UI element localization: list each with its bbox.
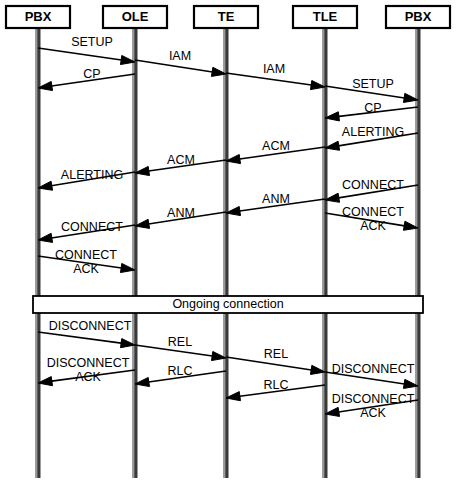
message-m24: DISCONNECTACK: [325, 392, 418, 420]
message-label: ACK: [360, 219, 386, 233]
message-m14: CONNECTACK: [325, 205, 418, 233]
message-label: ACK: [73, 262, 99, 276]
lifeline-te: [225, 28, 226, 478]
message-label: SETUP: [71, 35, 113, 49]
actor-header-te[interactable]: TE: [194, 6, 258, 28]
message-label: ALERTING: [342, 125, 404, 139]
message-m10: ALERTING: [38, 168, 135, 190]
message-label: CP: [364, 101, 381, 115]
actor-label: PBX: [25, 9, 52, 24]
message-label: DISCONNECT: [332, 362, 415, 376]
message-label: IAM: [263, 62, 285, 76]
message-label: ACK: [360, 406, 386, 420]
message-m03: CP: [38, 67, 135, 90]
sequence-diagram: SETUPIAMCPIAMSETUPCPALERTINGACMACMALERTI…: [0, 0, 457, 490]
message-m19: DISCONNECTACK: [38, 356, 135, 385]
ongoing-connection-band: Ongoing connection: [33, 296, 423, 313]
message-m08: ACM: [226, 139, 325, 163]
message-m17: DISCONNECT: [38, 319, 135, 347]
actor-headers-layer: PBXOLETETLEPBX: [6, 6, 450, 28]
message-label: SETUP: [352, 77, 394, 91]
actor-header-tle[interactable]: TLE: [293, 6, 357, 28]
message-m13: ANM: [135, 206, 226, 228]
message-label: DISCONNECT: [47, 356, 130, 370]
lifeline-pbx-left: [37, 28, 38, 478]
lifeline-pbx-right: [417, 28, 418, 478]
message-m21: DISCONNECT: [325, 362, 418, 388]
lifeline-ole: [134, 28, 135, 478]
message-label: ANM: [167, 206, 195, 220]
message-label: ACK: [75, 370, 101, 384]
message-label: CP: [83, 67, 100, 81]
message-label: DISCONNECT: [332, 392, 415, 406]
actor-label: OLE: [122, 9, 149, 24]
message-label: CONNECT: [342, 178, 404, 192]
message-m11: CONNECT: [325, 178, 418, 202]
sequence-diagram-canvas: SETUPIAMCPIAMSETUPCPALERTINGACMACMALERTI…: [0, 0, 457, 490]
message-label: DISCONNECT: [49, 319, 132, 333]
ongoing-connection-label: Ongoing connection: [172, 297, 283, 311]
actor-label: TLE: [313, 9, 338, 24]
actor-label: TE: [218, 9, 235, 24]
message-label: CONNECT: [61, 220, 123, 234]
message-m16: CONNECTACK: [38, 248, 135, 276]
message-label: RLC: [263, 378, 288, 392]
message-m12: ANM: [226, 192, 325, 215]
message-label: ACM: [262, 139, 290, 153]
actor-header-pbx-right[interactable]: PBX: [386, 6, 450, 28]
message-label: REL: [264, 347, 288, 361]
message-label: IAM: [169, 49, 191, 63]
message-m09: ACM: [135, 153, 226, 175]
message-m23: RLC: [226, 378, 325, 400]
message-m04: IAM: [226, 62, 325, 89]
message-label: ALERTING: [61, 168, 123, 182]
message-m18: REL: [135, 335, 226, 360]
ongoing-connection-band: Ongoing connection: [33, 296, 423, 313]
message-m05: SETUP: [325, 77, 418, 102]
message-label: ANM: [262, 192, 290, 206]
message-m02: IAM: [135, 49, 226, 76]
message-label: CONNECT: [342, 205, 404, 219]
message-label: ACM: [167, 153, 195, 167]
message-m22: RLC: [135, 364, 226, 386]
message-m07: ALERTING: [325, 125, 418, 150]
message-m01: SETUP: [38, 35, 135, 64]
message-m15: CONNECT: [38, 220, 135, 242]
actor-label: PBX: [405, 9, 432, 24]
message-label: RLC: [167, 364, 192, 378]
message-m20: REL: [226, 347, 325, 374]
message-label: CONNECT: [55, 248, 117, 262]
lifeline-tle: [324, 28, 325, 478]
actor-header-pbx-left[interactable]: PBX: [6, 6, 70, 28]
message-m06: CP: [325, 101, 418, 121]
message-label: REL: [168, 335, 192, 349]
actor-header-ole[interactable]: OLE: [103, 6, 167, 28]
